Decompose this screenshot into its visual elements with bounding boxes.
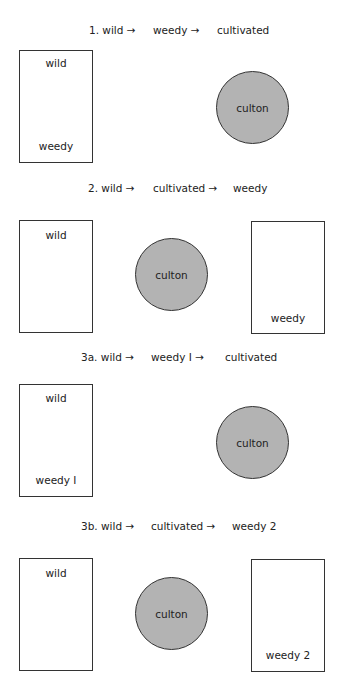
scenario-3b-title: 3b. wild → cultivated → weedy 2 <box>0 520 347 536</box>
scenario-1-title: 1. wild → weedy → cultivated <box>0 24 347 40</box>
title-step-1: 3a. wild → <box>81 351 134 363</box>
title-step-2: cultivated → <box>153 182 217 194</box>
box-label-weedy: weedy <box>252 312 324 324</box>
culton-circle: culton <box>135 238 208 311</box>
box-label-wild: wild <box>20 567 92 579</box>
culton-circle: culton <box>216 406 289 479</box>
scenario-3a: 3a. wild → weedy I → cultivated wild wee… <box>0 351 347 501</box>
title-step-3: weedy <box>233 182 267 194</box>
wild-box: wild <box>19 220 93 333</box>
scenario-2-title: 2. wild → cultivated → weedy <box>0 182 347 198</box>
title-step-1: 1. wild → <box>89 24 136 36</box>
scenario-2: 2. wild → cultivated → weedy wild culton… <box>0 182 347 332</box>
box-label-weedy: weedy <box>20 140 92 152</box>
title-step-3: weedy 2 <box>232 520 276 532</box>
scenario-1: 1. wild → weedy → cultivated wild weedy … <box>0 24 347 164</box>
weedy2-box: weedy 2 <box>251 559 325 672</box>
box-label-weedy-2: weedy 2 <box>252 649 324 661</box>
wild-box: wild <box>19 558 93 671</box>
title-step-3: cultivated <box>225 351 277 363</box>
scenario-3a-title: 3a. wild → weedy I → cultivated <box>0 351 347 367</box>
title-step-2: weedy I → <box>151 351 204 363</box>
wild-weedy1-box: wild weedy I <box>19 384 93 497</box>
title-step-1: 2. wild → <box>88 182 135 194</box>
weedy-box: weedy <box>251 221 325 334</box>
culton-circle: culton <box>216 71 289 144</box>
title-step-2: weedy → <box>153 24 200 36</box>
box-label-wild: wild <box>20 229 92 241</box>
box-label-wild: wild <box>20 57 92 69</box>
box-label-wild: wild <box>20 392 92 404</box>
title-step-1: 3b. wild → <box>81 520 134 532</box>
title-step-3: cultivated <box>217 24 269 36</box>
title-step-2: cultivated → <box>151 520 215 532</box>
box-label-weedy-1: weedy I <box>20 474 92 486</box>
wild-weedy-box: wild weedy <box>19 50 93 163</box>
culton-circle: culton <box>135 577 208 650</box>
scenario-3b: 3b. wild → cultivated → weedy 2 wild cul… <box>0 520 347 685</box>
